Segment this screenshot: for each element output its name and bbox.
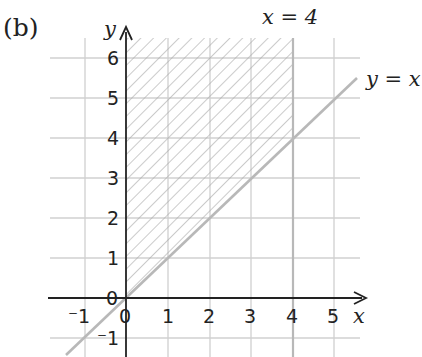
inequality-graph: (b) y x x = 4 y = x ⁻1 0 1 2 3 4 5 ⁻1 0 … (0, 0, 422, 357)
svg-text:2: 2 (203, 305, 215, 327)
svg-text:2: 2 (107, 207, 119, 229)
x-axis-label: x (353, 304, 365, 328)
svg-text:4: 4 (286, 305, 298, 327)
y-axis-label: y (103, 17, 117, 41)
svg-text:1: 1 (107, 247, 119, 269)
part-label: (b) (3, 13, 39, 42)
y-tick-labels: ⁻1 0 1 2 3 4 5 6 (97, 47, 119, 349)
svg-text:4: 4 (107, 127, 119, 149)
svg-text:6: 6 (107, 47, 119, 69)
svg-text:3: 3 (244, 305, 256, 327)
svg-text:0: 0 (119, 305, 131, 327)
svg-text:1: 1 (162, 305, 174, 327)
svg-text:3: 3 (107, 167, 119, 189)
svg-text:5: 5 (107, 87, 119, 109)
label-y-equals-x: y = x (365, 67, 421, 91)
svg-text:0: 0 (106, 287, 118, 309)
x-axis (48, 292, 366, 304)
label-x-equals-4: x = 4 (262, 5, 318, 29)
svg-text:⁻1: ⁻1 (68, 305, 90, 327)
svg-text:5: 5 (327, 305, 339, 327)
svg-text:⁻1: ⁻1 (97, 327, 119, 349)
